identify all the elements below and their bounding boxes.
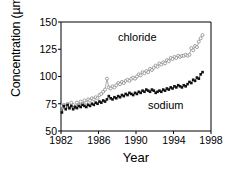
- data-point: [199, 37, 202, 40]
- data-point: [64, 108, 67, 111]
- data-point: [156, 65, 159, 68]
- data-point: [106, 98, 109, 101]
- data-point: [197, 40, 200, 43]
- data-point: [195, 46, 198, 49]
- data-point: [104, 88, 107, 91]
- data-point: [61, 111, 64, 114]
- data-point: [198, 77, 201, 80]
- data-point: [194, 80, 197, 83]
- plot-area: [0, 0, 233, 174]
- data-point: [201, 34, 204, 37]
- data-point: [96, 97, 99, 100]
- series-chloride: [60, 34, 204, 110]
- data-point: [192, 49, 195, 52]
- series-line-chloride: [62, 35, 203, 108]
- data-point: [164, 62, 167, 65]
- data-point: [70, 105, 73, 108]
- data-point: [188, 53, 191, 56]
- data-point: [147, 71, 150, 74]
- data-point: [63, 105, 66, 108]
- data-point: [105, 77, 108, 80]
- chart-figure: Concentration (µmol/L) 150 125 100 75 50…: [0, 0, 233, 174]
- data-point: [190, 82, 193, 85]
- data-point: [66, 104, 69, 107]
- data-point: [167, 60, 170, 63]
- data-point: [139, 74, 142, 77]
- data-point: [201, 71, 204, 74]
